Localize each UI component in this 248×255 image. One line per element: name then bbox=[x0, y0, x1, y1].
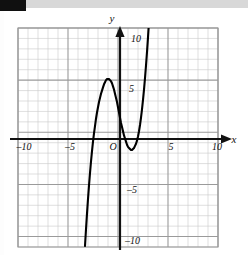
x-tick-label-pos5: 5 bbox=[169, 141, 174, 152]
y-tick-label-neg5: –5 bbox=[126, 184, 137, 195]
y-tick-label-neg10: –10 bbox=[124, 235, 140, 246]
x-tick-label-neg10: –10 bbox=[16, 141, 32, 152]
y-tick-label-pos10: 10 bbox=[131, 33, 141, 44]
coordinate-plane: x y O –10 –5 5 10 10 5 –5 –10 bbox=[0, 0, 248, 255]
x-axis-label: x bbox=[231, 133, 237, 145]
origin-label: O bbox=[109, 141, 116, 152]
x-axis-arrowhead-right bbox=[221, 134, 232, 143]
y-axis-label: y bbox=[109, 12, 115, 24]
y-tick-label-pos5: 5 bbox=[129, 83, 134, 94]
x-tick-label-neg5: –5 bbox=[64, 141, 75, 152]
x-tick-label-pos10: 10 bbox=[212, 141, 222, 152]
graph-figure: x y O –10 –5 5 10 10 5 –5 –10 bbox=[0, 0, 248, 255]
